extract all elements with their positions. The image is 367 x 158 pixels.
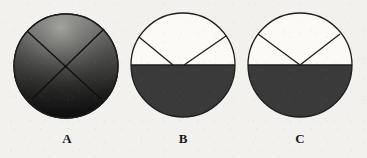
circle-group-c [246, 13, 356, 121]
circle-b-shaded-half [129, 65, 239, 121]
circle-label-b: B [179, 131, 188, 146]
circle-group-b [129, 13, 239, 121]
figure-container: A B C [0, 0, 367, 158]
circle-c-shaded-half [246, 65, 356, 121]
circle-group-a [14, 14, 118, 118]
fraction-circles-figure: A B C [0, 0, 367, 158]
circle-label-c: C [295, 131, 304, 146]
circle-label-a: A [62, 131, 72, 146]
